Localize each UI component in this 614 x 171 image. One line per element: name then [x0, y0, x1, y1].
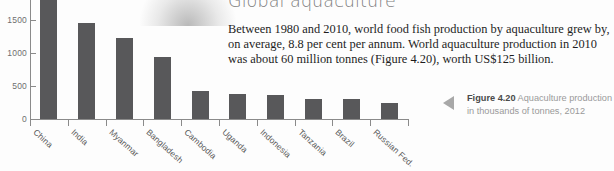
body-paragraph: Between 1980 and 2010, world food fish p… — [228, 22, 610, 68]
bar — [78, 23, 95, 119]
page-title: Global aquaculture — [228, 0, 396, 11]
y-tick-label: 0 — [0, 115, 27, 124]
bar — [40, 0, 57, 119]
x-tick-mark — [408, 119, 409, 126]
x-tick-mark — [332, 119, 333, 126]
bar — [229, 94, 246, 119]
y-tick-mark — [31, 86, 36, 87]
bar — [154, 57, 171, 119]
y-tick-mark — [31, 53, 36, 54]
y-tick-label: 500 — [0, 82, 27, 91]
figure-caption-text: Figure 4.20 Aquaculture production in th… — [467, 92, 613, 117]
x-tick-label: Indonesia — [258, 127, 293, 160]
x-tick-label: China — [31, 127, 55, 150]
x-tick-label: Cambodia — [182, 127, 218, 161]
figure-number: Figure 4.20 — [467, 93, 516, 103]
x-tick-label: Tanzania — [296, 127, 329, 158]
x-tick-mark — [143, 119, 144, 126]
x-tick-label: Myanmar — [107, 127, 141, 159]
x-tick-mark — [295, 119, 296, 126]
x-tick-mark — [68, 119, 69, 126]
x-tick-label: Bangladesh — [145, 127, 186, 165]
x-tick-mark — [106, 119, 107, 126]
y-tick-mark — [31, 119, 36, 120]
bar — [192, 91, 209, 119]
x-tick-label: Brazil — [334, 127, 357, 149]
x-tick-mark — [257, 119, 258, 126]
x-tick-label: India — [69, 127, 90, 147]
y-tick-label: 1000 — [0, 49, 27, 58]
bar — [116, 38, 133, 119]
x-tick-mark — [30, 119, 31, 126]
y-tick-label: 1500 — [0, 16, 27, 25]
bar — [343, 99, 360, 119]
x-axis-labels: ChinaIndiaMyanmarBangladeshCambodiaUgand… — [30, 119, 408, 171]
bar — [381, 103, 398, 119]
bar — [267, 95, 284, 119]
left-pointing-triangle-icon — [443, 96, 454, 110]
y-tick-mark — [31, 20, 36, 21]
x-tick-mark — [219, 119, 220, 126]
x-tick-label: Russian Fed. — [371, 127, 416, 169]
y-axis-labels: 050010001500 — [0, 0, 27, 125]
x-tick-mark — [181, 119, 182, 126]
x-tick-mark — [370, 119, 371, 126]
x-tick-label: Uganda — [220, 127, 249, 155]
bar — [305, 99, 322, 119]
